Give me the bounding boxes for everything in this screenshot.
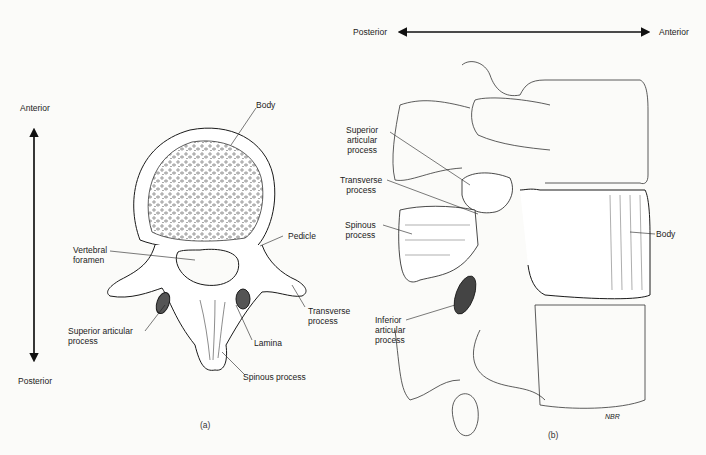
label-inferior-articular-process: Inferior articular process	[375, 315, 405, 345]
label-spinous-process-a: Spinous process	[243, 372, 306, 382]
vertebra-superior-view	[108, 128, 306, 370]
orientation-label-anterior-a: Anterior	[20, 103, 50, 113]
label-lamina: Lamina	[254, 338, 282, 348]
orientation-label-anterior-b: Anterior	[659, 27, 689, 37]
label-transverse-process-b: Transverse process	[340, 175, 382, 195]
label-spinous-process-b: Spinous process	[345, 220, 376, 240]
label-body-a: Body	[256, 100, 275, 110]
label-superior-articular-process-b: Superior articular process	[346, 125, 378, 155]
artist-signature: NBR	[605, 412, 620, 422]
label-pedicle: Pedicle	[288, 231, 316, 241]
orientation-label-posterior-a: Posterior	[18, 376, 52, 386]
caption-a: (a)	[200, 420, 210, 430]
orientation-label-posterior-b: Posterior	[353, 27, 387, 37]
label-transverse-process-a: Transverse process	[308, 306, 350, 326]
caption-b: (b)	[548, 430, 558, 440]
label-vertebral-foramen: Vertebral foramen	[73, 245, 107, 265]
label-superior-articular-process-a: Superior articular process	[68, 326, 133, 346]
vertebra-lateral-view	[393, 62, 650, 436]
label-body-b: Body	[656, 229, 675, 239]
